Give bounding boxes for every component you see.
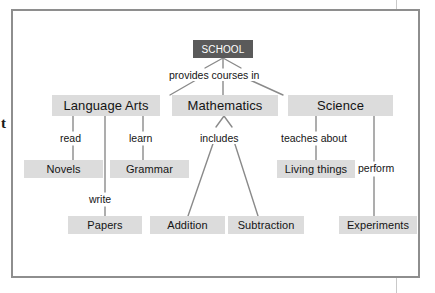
node-papers[interactable]: Papers — [68, 216, 142, 234]
link-label-learn: learn — [127, 132, 154, 144]
node-experiments[interactable]: Experiments — [339, 216, 417, 234]
node-addition[interactable]: Addition — [150, 216, 225, 234]
link-label-provides-courses-in: provides courses in — [167, 69, 261, 81]
node-school[interactable]: SCHOOL — [193, 40, 253, 58]
node-living-things[interactable]: Living things — [277, 160, 355, 178]
link-label-write: write — [87, 193, 113, 205]
link-label-includes: includes — [198, 132, 241, 144]
node-grammar[interactable]: Grammar — [110, 160, 189, 178]
node-subtraction[interactable]: Subtraction — [228, 216, 304, 234]
node-language-arts[interactable]: Language Arts — [52, 95, 160, 116]
node-science[interactable]: Science — [288, 95, 393, 116]
node-mathematics[interactable]: Mathematics — [172, 95, 278, 116]
link-label-perform: perform — [356, 162, 396, 174]
node-novels[interactable]: Novels — [24, 160, 103, 178]
scanned-page: t — [0, 0, 435, 293]
link-label-teaches-about: teaches about — [279, 132, 349, 144]
link-label-read: read — [58, 132, 83, 144]
